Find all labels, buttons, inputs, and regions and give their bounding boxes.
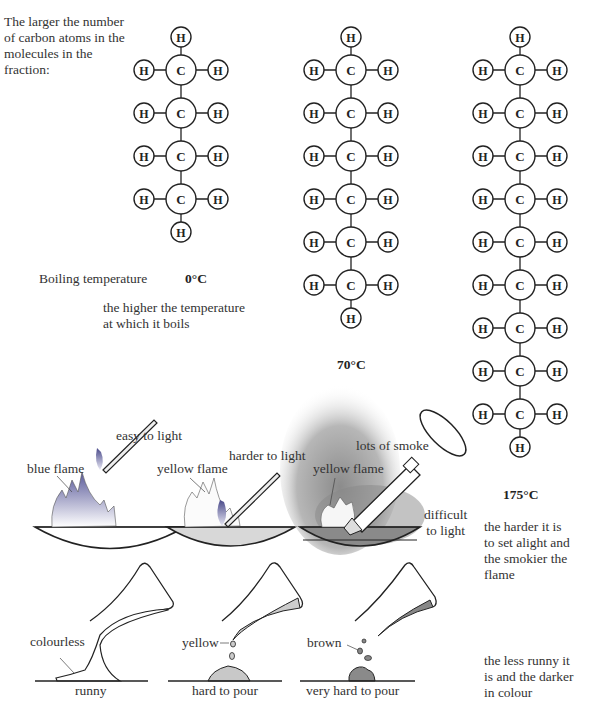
pour-panel-3 <box>300 563 436 681</box>
drop-2b <box>230 653 235 660</box>
label-runny: runny <box>75 683 107 699</box>
label-hard-to-pour: hard to pour <box>192 683 258 699</box>
drop-3a <box>362 639 366 643</box>
viscosity-trend-text: the less runny it is and the darker in c… <box>484 653 574 701</box>
brown-pointer <box>347 645 358 650</box>
viscosity-illustrations <box>0 0 601 721</box>
drop-2a <box>231 641 236 647</box>
drop-3b <box>358 648 363 654</box>
label-brown: brown <box>307 635 342 651</box>
pour-panel-1 <box>35 563 173 681</box>
funnel-3 <box>355 563 436 621</box>
pour-panel-2 <box>168 563 303 681</box>
trend-line: in colour <box>484 685 574 701</box>
funnel-2 <box>222 563 303 621</box>
puddle-2 <box>208 666 250 681</box>
label-very-hard-to-pour: very hard to pour <box>306 683 399 699</box>
stream-3 <box>378 600 433 636</box>
label-colourless: colourless <box>30 634 85 650</box>
puddle-3 <box>349 667 375 681</box>
trend-line: the less runny it <box>484 653 574 669</box>
trend-line: is and the darker <box>484 669 574 685</box>
stream-2 <box>233 598 300 640</box>
colourless-pointer <box>60 658 74 673</box>
label-yellow: yellow <box>182 635 219 651</box>
drop-3c <box>365 656 372 661</box>
